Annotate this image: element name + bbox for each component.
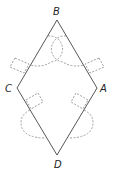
vertex-label-d: D [54, 159, 62, 170]
rhombus-diagram: B A D C [0, 0, 114, 173]
arc-lower-left [21, 110, 46, 138]
arc-lower-right [68, 110, 93, 138]
rect-upper-right [85, 58, 104, 73]
vertex-label-b: B [53, 6, 60, 17]
arc-top-right [51, 36, 84, 66]
rect-upper-left [10, 58, 29, 73]
vertex-label-c: C [5, 83, 12, 94]
arc-top-left [30, 36, 63, 66]
vertex-label-a: A [99, 83, 107, 94]
